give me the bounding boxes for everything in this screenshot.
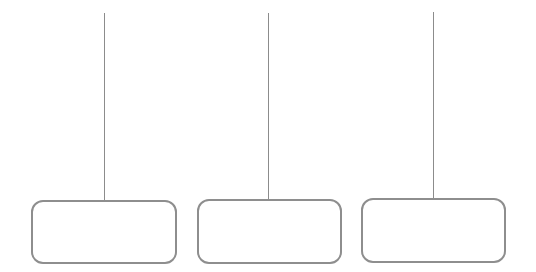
connector-line-3: [433, 12, 434, 199]
diagram-box-2: [197, 199, 342, 264]
diagram-box-1: [31, 200, 177, 264]
connector-line-2: [268, 13, 269, 200]
diagram-box-3: [361, 198, 506, 263]
connector-line-1: [104, 13, 105, 201]
